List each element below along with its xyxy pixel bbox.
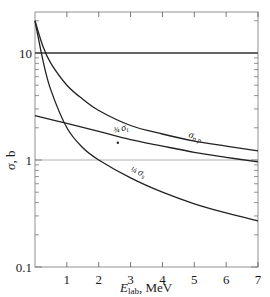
- y-tick-label: 0.1: [16, 260, 32, 275]
- y-axis-title: σ, b: [3, 151, 18, 170]
- x-tick-label: 2: [95, 272, 102, 287]
- axis-tick-labels: 12345670.1110: [16, 46, 262, 287]
- curve--3-4-t: [35, 116, 258, 162]
- data-curves: [35, 21, 258, 221]
- label-three-quarter-sigma-t: ¾σt: [112, 121, 130, 137]
- y-tick-label: 10: [19, 46, 32, 61]
- x-axis-title: Elab, MeV: [119, 280, 173, 296]
- plot-frame: [35, 12, 258, 267]
- x-tick-label: 1: [64, 272, 71, 287]
- reference-lines: [35, 53, 258, 160]
- x-tick-label: 3: [127, 272, 134, 287]
- cross-section-chart: 12345670.1110 σn p ¾σt ¼σs σ, b Elab, Me…: [0, 0, 270, 297]
- data-point: [117, 142, 119, 144]
- x-tick-label: 7: [255, 272, 262, 287]
- y-tick-label: 1: [26, 153, 33, 168]
- annotation-points: [117, 142, 119, 144]
- axis-ticks: [35, 12, 258, 267]
- curve--1-4-s: [35, 21, 258, 221]
- x-tick-label: 6: [223, 272, 230, 287]
- x-tick-label: 5: [191, 272, 198, 287]
